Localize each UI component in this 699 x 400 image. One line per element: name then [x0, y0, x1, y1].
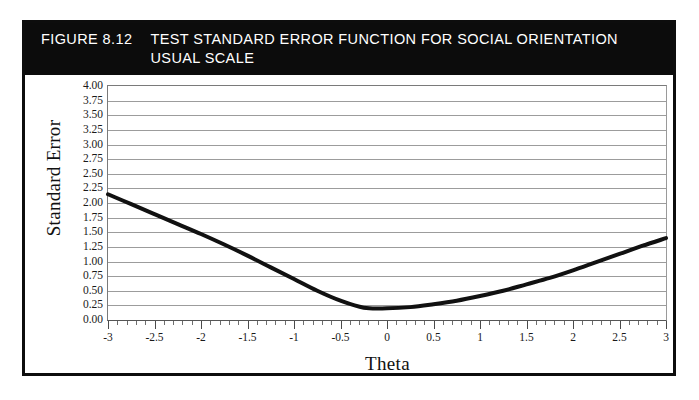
x-tick-label: 2 [570, 331, 576, 343]
y-tick-label: 0.00 [83, 313, 103, 325]
y-tick-label: 1.75 [83, 211, 103, 223]
x-tick-label: 1.5 [519, 331, 533, 343]
y-tick-label: 3.25 [83, 123, 103, 135]
x-axis-tick-labels: -3-2.5-2-1.5-1-0.500.511.522.53 [107, 331, 668, 349]
y-tick-label: 3.50 [83, 108, 103, 120]
x-tick-major [666, 321, 667, 329]
y-tick-label: 1.00 [83, 255, 103, 267]
x-tick-minor [303, 321, 304, 325]
plot-wrapper: Standard Error 4.003.753.503.253.002.752… [25, 75, 673, 373]
y-tick-label: 1.50 [83, 225, 103, 237]
x-tick-minor [452, 321, 453, 325]
x-tick-minor [406, 321, 407, 325]
y-tick-label: 3.00 [83, 138, 103, 150]
x-tick-minor [471, 321, 472, 325]
x-tick-label: -3 [103, 331, 113, 343]
x-tick-minor [368, 321, 369, 325]
x-tick-major [387, 321, 388, 329]
x-tick-minor [536, 321, 537, 325]
y-tick-label: 4.00 [83, 79, 103, 91]
x-tick-major [620, 321, 621, 329]
x-tick-major [527, 321, 528, 329]
x-axis-ticks [107, 321, 668, 330]
x-tick-minor [489, 321, 490, 325]
plot-area [107, 85, 667, 321]
x-tick-label: 0 [384, 331, 390, 343]
figure-container: FIGURE 8.12 TEST STANDARD ERROR FUNCTION… [22, 20, 676, 376]
x-tick-minor [136, 321, 137, 325]
x-tick-minor [378, 321, 379, 325]
x-tick-minor [285, 321, 286, 325]
figure-title-bar: FIGURE 8.12 TEST STANDARD ERROR FUNCTION… [25, 23, 673, 75]
x-axis-label: Theta [107, 353, 668, 375]
x-tick-minor [647, 321, 648, 325]
y-tick-label: 2.00 [83, 196, 103, 208]
x-tick-label: 1 [477, 331, 483, 343]
x-tick-label: 3 [663, 331, 669, 343]
x-tick-label: -0.5 [331, 331, 349, 343]
x-tick-minor [182, 321, 183, 325]
x-tick-minor [117, 321, 118, 325]
x-tick-minor [415, 321, 416, 325]
x-tick-label: -1 [289, 331, 299, 343]
x-tick-minor [424, 321, 425, 325]
x-tick-minor [443, 321, 444, 325]
x-tick-minor [499, 321, 500, 325]
x-tick-minor [638, 321, 639, 325]
figure-title-line-1: TEST STANDARD ERROR FUNCTION FOR SOCIAL … [150, 30, 618, 49]
x-tick-minor [275, 321, 276, 325]
x-tick-minor [629, 321, 630, 325]
x-tick-minor [257, 321, 258, 325]
x-tick-minor [508, 321, 509, 325]
y-axis-label: Standard Error [43, 83, 65, 273]
x-tick-label: 0.5 [426, 331, 440, 343]
figure-title: TEST STANDARD ERROR FUNCTION FOR SOCIAL … [150, 30, 618, 68]
x-tick-minor [266, 321, 267, 325]
x-tick-minor [601, 321, 602, 325]
x-tick-major [434, 321, 435, 329]
x-tick-major [201, 321, 202, 329]
x-tick-minor [582, 321, 583, 325]
x-tick-minor [554, 321, 555, 325]
y-tick-label: 0.75 [83, 269, 103, 281]
figure-title-inner: FIGURE 8.12 TEST STANDARD ERROR FUNCTION… [41, 30, 663, 68]
y-tick-label: 0.25 [83, 298, 103, 310]
y-axis-tick-labels: 4.003.753.503.253.002.752.502.252.001.75… [65, 83, 103, 327]
x-tick-major [341, 321, 342, 329]
x-tick-major [573, 321, 574, 329]
y-tick-label: 3.75 [83, 94, 103, 106]
x-tick-minor [396, 321, 397, 325]
standard-error-curve [108, 194, 666, 308]
x-tick-minor [145, 321, 146, 325]
x-tick-minor [322, 321, 323, 325]
x-tick-minor [164, 321, 165, 325]
x-tick-major [480, 321, 481, 329]
figure-number: FIGURE 8.12 [41, 30, 132, 49]
y-tick-label: 2.50 [83, 167, 103, 179]
standard-error-curve-svg [108, 86, 666, 320]
x-tick-minor [210, 321, 211, 325]
x-tick-minor [657, 321, 658, 325]
y-tick-label: 2.75 [83, 152, 103, 164]
x-tick-major [155, 321, 156, 329]
x-tick-minor [461, 321, 462, 325]
x-tick-minor [564, 321, 565, 325]
x-tick-minor [173, 321, 174, 325]
x-tick-label: -1.5 [238, 331, 256, 343]
x-tick-minor [517, 321, 518, 325]
x-tick-label: 2.5 [612, 331, 626, 343]
x-tick-major [294, 321, 295, 329]
x-tick-minor [331, 321, 332, 325]
x-tick-minor [220, 321, 221, 325]
figure-title-line-2: USUAL SCALE [150, 49, 618, 68]
x-tick-minor [192, 321, 193, 325]
x-tick-major [108, 321, 109, 329]
y-tick-label: 2.25 [83, 181, 103, 193]
x-tick-minor [229, 321, 230, 325]
x-tick-minor [313, 321, 314, 325]
x-tick-minor [545, 321, 546, 325]
x-tick-label: -2.5 [145, 331, 163, 343]
x-tick-minor [127, 321, 128, 325]
y-tick-label: 1.25 [83, 240, 103, 252]
x-tick-major [248, 321, 249, 329]
